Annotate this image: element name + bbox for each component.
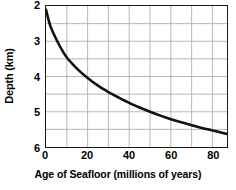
data-series-layer xyxy=(46,10,227,134)
x-axis-tick-labels: 020406080 xyxy=(45,150,228,166)
y-tick-label: 5 xyxy=(34,107,40,118)
x-tick-label: 20 xyxy=(81,150,93,161)
chart-figure: Depth (km) 23456 020406080 Age of Seaflo… xyxy=(0,0,236,190)
x-tick-label: 60 xyxy=(165,150,177,161)
x-axis-title: Age of Seafloor (millions of years) xyxy=(0,168,236,180)
y-tick-label: 4 xyxy=(34,71,40,82)
plot-area xyxy=(45,5,228,148)
x-tick-label: 40 xyxy=(123,150,135,161)
data-curve xyxy=(46,10,227,134)
y-tick-label: 2 xyxy=(34,0,40,11)
y-tick-label: 6 xyxy=(34,143,40,154)
x-tick-label: 80 xyxy=(207,150,219,161)
horizontal-gridlines xyxy=(46,24,227,130)
y-axis-title: Depth (km) xyxy=(0,0,18,152)
x-tick-label: 0 xyxy=(42,150,48,161)
plot-svg xyxy=(46,6,227,147)
y-axis-tick-labels: 23456 xyxy=(20,5,42,148)
y-axis-title-text: Depth (km) xyxy=(3,48,15,103)
y-tick-label: 3 xyxy=(34,35,40,46)
